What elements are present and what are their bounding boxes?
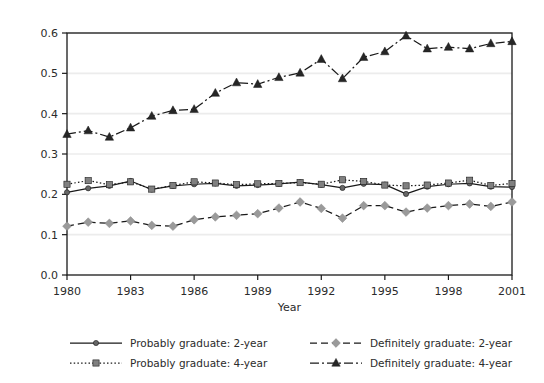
y-tick-label-0.5: 0.5 [41, 67, 59, 80]
legend-swatch-marker-2 [93, 360, 99, 366]
series-1-point-3 [127, 179, 133, 185]
y-tick-label-0.4: 0.4 [41, 108, 59, 121]
series-1-point-20 [488, 182, 494, 188]
series-1-point-21 [509, 180, 515, 186]
x-tick-label-2001: 2001 [498, 285, 526, 298]
series-1-point-6 [191, 179, 197, 185]
series-1-point-16 [403, 183, 409, 189]
series-0-point-1 [86, 186, 91, 191]
y-tick-label-0.1: 0.1 [41, 229, 59, 242]
series-1-point-14 [361, 178, 367, 184]
x-tick-label-1980: 1980 [53, 285, 81, 298]
series-1-point-5 [170, 182, 176, 188]
series-1-point-2 [106, 182, 112, 188]
y-tick-label-0.6: 0.6 [41, 27, 59, 40]
series-0-point-13 [340, 185, 345, 190]
series-0-point-16 [403, 191, 408, 196]
chart-figure: 0.00.10.20.30.40.50.61980198319861989199… [0, 0, 544, 383]
series-0-point-0 [64, 190, 69, 195]
y-tick-label-0.0: 0.0 [41, 269, 59, 282]
series-1-point-10 [276, 180, 282, 186]
series-1-point-15 [382, 182, 388, 188]
legend-label-2: Probably graduate: 4-year [130, 357, 268, 369]
series-1-point-9 [255, 181, 261, 187]
x-tick-label-1992: 1992 [307, 285, 335, 298]
series-1-point-11 [297, 180, 303, 186]
legend-swatch-marker-0 [93, 340, 98, 345]
x-tick-label-1998: 1998 [434, 285, 462, 298]
series-1-point-18 [445, 180, 451, 186]
series-1-point-8 [233, 182, 239, 188]
series-1-point-0 [64, 181, 70, 187]
y-tick-label-0.2: 0.2 [41, 188, 59, 201]
series-1-point-4 [149, 186, 155, 192]
legend-label-1: Definitely graduate: 2-year [370, 337, 513, 349]
series-1-point-1 [85, 178, 91, 184]
legend-swatch-marker-3 [332, 358, 340, 366]
series-1-point-12 [318, 181, 324, 187]
legend-label-3: Definitely graduate: 4-year [370, 357, 513, 369]
series-1-point-17 [424, 182, 430, 188]
x-tick-label-1995: 1995 [371, 285, 399, 298]
series-1-point-7 [212, 180, 218, 186]
line-chart: 0.00.10.20.30.40.50.61980198319861989199… [0, 0, 544, 383]
series-1-point-19 [467, 177, 473, 183]
x-tick-label-1983: 1983 [117, 285, 145, 298]
x-axis-title: Year [277, 301, 302, 314]
legend-swatch-marker-1 [332, 339, 341, 348]
series-1-point-13 [339, 177, 345, 183]
legend-label-0: Probably graduate: 2-year [130, 337, 268, 349]
y-tick-label-0.3: 0.3 [41, 148, 59, 161]
x-tick-label-1986: 1986 [180, 285, 208, 298]
x-tick-label-1989: 1989 [244, 285, 272, 298]
